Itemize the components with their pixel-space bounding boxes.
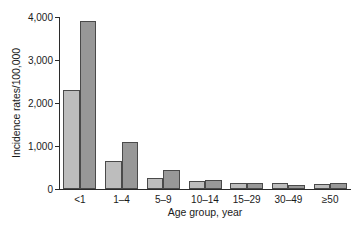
bar[interactable] [288, 185, 305, 190]
x-tick-label: <1 [74, 194, 85, 205]
bar[interactable] [272, 183, 289, 189]
bar-group [314, 17, 347, 189]
y-tick-mark [55, 60, 59, 61]
x-tick-label: 15–29 [233, 194, 261, 205]
y-tick-mark [55, 146, 59, 147]
x-tick-label: 30–49 [275, 194, 303, 205]
y-tick-label: 3,000 [28, 55, 53, 66]
y-tick-mark [55, 17, 59, 18]
x-tick-label: ≥50 [322, 194, 339, 205]
bar[interactable] [105, 161, 122, 189]
y-axis-label: Incidence rates/100,000 [8, 8, 24, 198]
y-tick-mark [55, 103, 59, 104]
x-tick-label: 10–14 [191, 194, 219, 205]
bar[interactable] [314, 184, 331, 189]
bar[interactable] [163, 170, 180, 189]
bar-group [189, 17, 222, 189]
x-tick-label: 5–9 [155, 194, 172, 205]
bar-group [230, 17, 263, 189]
x-tick-label: 1–4 [113, 194, 130, 205]
bar[interactable] [230, 183, 247, 189]
bar[interactable] [189, 181, 206, 189]
bar[interactable] [122, 142, 139, 189]
bar[interactable] [205, 180, 222, 189]
y-tick-label: 2,000 [28, 98, 53, 109]
bar-group [147, 17, 180, 189]
y-tick-label: 1,000 [28, 141, 53, 152]
plot-area: 01,0002,0003,0004,000 <11–45–910–1415–29… [59, 17, 351, 190]
bar[interactable] [147, 178, 164, 189]
bar[interactable] [80, 21, 97, 189]
x-axis-line [59, 189, 351, 190]
y-tick-label: 4,000 [28, 12, 53, 23]
bar[interactable] [330, 183, 347, 189]
bar-group [272, 17, 305, 189]
y-tick-label: 0 [47, 184, 53, 195]
bar[interactable] [247, 183, 264, 189]
x-axis-label: Age group, year [59, 206, 351, 218]
bar-chart-figure: Incidence rates/100,000 01,0002,0003,000… [0, 0, 364, 229]
y-axis-line [59, 17, 60, 190]
bar-group [63, 17, 96, 189]
bar[interactable] [63, 90, 80, 189]
bar-group [105, 17, 138, 189]
y-tick-mark [55, 189, 59, 190]
